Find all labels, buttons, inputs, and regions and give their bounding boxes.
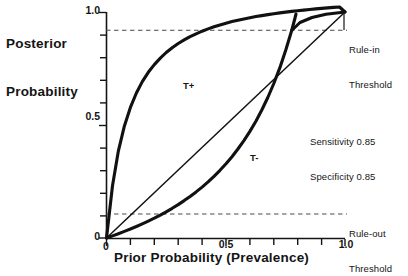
y-axis-title: Posterior Probability: [6, 4, 78, 132]
sensitivity-specificity-annotation: Sensitivity 0.85 Specificity 0.85: [310, 113, 376, 205]
rule-out-label-line2: Threshold: [349, 263, 392, 275]
y-axis-title-line1: Posterior: [6, 36, 78, 52]
x-axis-title: Prior Probability (Prevalence): [114, 250, 309, 265]
sensitivity-value: Sensitivity 0.85: [310, 136, 376, 148]
rule-in-label-line1: Rule-in: [349, 44, 392, 56]
curve-label-t-negative: T-: [250, 152, 258, 163]
x-tick-label-0.5: 0.5: [216, 238, 236, 250]
rule-out-threshold-label: Rule-out Threshold: [349, 205, 392, 276]
rule-in-label-line2: Threshold: [349, 79, 392, 91]
rule-out-label-line1: Rule-out: [349, 228, 392, 240]
y-tick-label-1.0: 1.0: [72, 4, 100, 16]
rule-in-threshold-label: Rule-in Threshold: [349, 21, 392, 113]
specificity-value: Specificity 0.85: [310, 171, 376, 183]
y-axis-title-line2: Probability: [6, 84, 78, 100]
t-negative-curve: [107, 14, 297, 238]
y-tick-label-0.5: 0.5: [72, 110, 100, 122]
y-axis-ticks: [99, 13, 106, 239]
t-negative-curve-tail: [292, 12, 345, 31]
curve-label-t-positive: T+: [183, 80, 194, 91]
x-tick-label-0: 0: [96, 240, 116, 252]
